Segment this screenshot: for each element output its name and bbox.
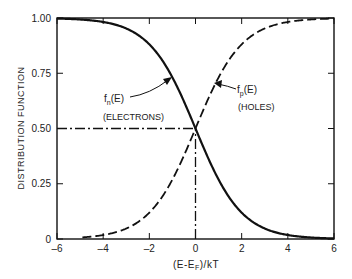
x-tick-label: –6	[51, 243, 63, 254]
y-tick-label: 0.50	[32, 123, 52, 134]
fn-arrowhead-icon	[163, 77, 172, 85]
axis-ticks: –6–4–2024600.250.500.751.00	[32, 13, 338, 255]
x-tick-label: 4	[285, 243, 291, 254]
x-tick-label: 2	[239, 243, 245, 254]
fn-arrow-line	[130, 80, 168, 97]
reference-lines	[57, 129, 196, 240]
y-tick-label: 1.00	[32, 13, 52, 24]
y-tick-label: 0.25	[32, 178, 52, 189]
fp-arrowhead-icon	[214, 80, 222, 88]
x-axis-label: (E-EF)/kT	[173, 259, 219, 271]
x-tick-label: –4	[98, 243, 110, 254]
y-axis-label: DISTRIBUTION FUNCTION	[16, 67, 26, 190]
fn-label: fn(E)	[104, 93, 124, 106]
fn-description: (ELECTRONS)	[103, 112, 164, 122]
x-tick-label: 0	[193, 243, 199, 254]
fp-label: fp(E)	[237, 84, 257, 98]
fp-description: (HOLES)	[238, 102, 275, 112]
annotations	[130, 77, 236, 97]
fermi-distribution-chart: –6–4–2024600.250.500.751.00 DISTRIBUTION…	[0, 0, 352, 279]
y-tick-label: 0	[45, 234, 51, 245]
x-tick-label: –2	[144, 243, 156, 254]
y-tick-label: 0.75	[32, 68, 52, 79]
x-tick-label: 6	[331, 243, 337, 254]
